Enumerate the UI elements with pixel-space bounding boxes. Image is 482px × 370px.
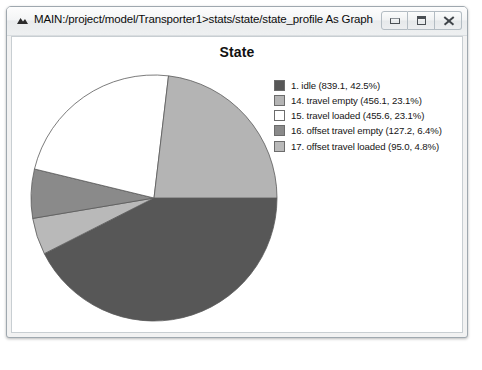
pie-chart[interactable] xyxy=(29,73,279,323)
legend-swatch xyxy=(274,95,285,106)
pie-chart-panel: State 1. idle (839.1, 42.5%)14. travel e… xyxy=(12,37,462,332)
app-logo-icon xyxy=(16,15,29,27)
restore-icon xyxy=(417,16,426,25)
legend-item[interactable]: 16. offset travel empty (127.2, 6.4%) xyxy=(274,125,460,137)
legend-item[interactable]: 14. travel empty (456.1, 23.1%) xyxy=(274,94,460,106)
legend-item[interactable]: 15. travel loaded (455.6, 23.1%) xyxy=(274,110,460,122)
window-client-area: State 1. idle (839.1, 42.5%)14. travel e… xyxy=(11,36,463,333)
legend-swatch xyxy=(274,125,285,136)
legend-label: 17. offset travel loaded (95.0, 4.8%) xyxy=(291,141,439,152)
close-button[interactable] xyxy=(435,11,462,30)
legend-item[interactable]: 1. idle (839.1, 42.5%) xyxy=(274,79,460,91)
close-icon xyxy=(443,16,454,26)
chart-window: MAIN:/project/model/Transporter1>stats/s… xyxy=(6,6,468,338)
legend-swatch xyxy=(274,80,285,91)
legend-item[interactable]: 17. offset travel loaded (95.0, 4.8%) xyxy=(274,140,460,152)
legend-label: 1. idle (839.1, 42.5%) xyxy=(291,80,380,91)
pie-chart-svg xyxy=(29,73,279,323)
window-title: MAIN:/project/model/Transporter1>stats/s… xyxy=(34,13,373,25)
legend-label: 16. offset travel empty (127.2, 6.4%) xyxy=(291,125,442,136)
minimize-button[interactable] xyxy=(381,11,408,30)
legend-swatch xyxy=(274,110,285,121)
pie-slices xyxy=(31,75,277,321)
chart-title: State xyxy=(12,44,462,60)
window-titlebar[interactable]: MAIN:/project/model/Transporter1>stats/s… xyxy=(7,7,467,36)
pie-slice[interactable] xyxy=(154,76,277,198)
minimize-icon xyxy=(390,18,400,24)
window-controls xyxy=(381,11,462,30)
chart-legend: 1. idle (839.1, 42.5%)14. travel empty (… xyxy=(274,79,460,155)
legend-swatch xyxy=(274,141,285,152)
legend-label: 15. travel loaded (455.6, 23.1%) xyxy=(291,110,424,121)
legend-label: 14. travel empty (456.1, 23.1%) xyxy=(291,95,422,106)
restore-button[interactable] xyxy=(408,11,435,30)
